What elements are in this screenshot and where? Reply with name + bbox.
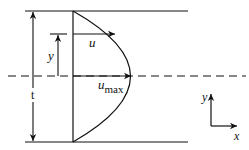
velocity-label: u: [89, 35, 96, 50]
max-velocity-subscript: max: [105, 83, 124, 95]
axis-x-label: x: [233, 129, 240, 143]
axis-y-label: y: [201, 90, 208, 104]
velocity-profile-diagram: t y u umax y x: [0, 0, 249, 150]
y-position-label: y: [46, 48, 54, 63]
max-velocity-label: umax: [98, 77, 124, 95]
diagram-canvas: t y u umax y x: [0, 0, 249, 150]
